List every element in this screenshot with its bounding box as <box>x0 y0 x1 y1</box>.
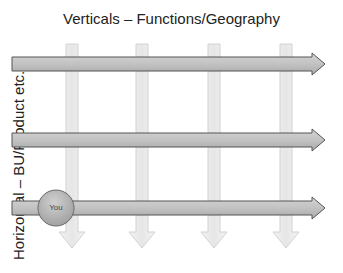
horizontal-arrow-1 <box>12 53 325 75</box>
you-label: You <box>38 203 74 212</box>
matrix-diagram <box>0 0 343 273</box>
horizontal-arrow-2 <box>12 129 325 151</box>
